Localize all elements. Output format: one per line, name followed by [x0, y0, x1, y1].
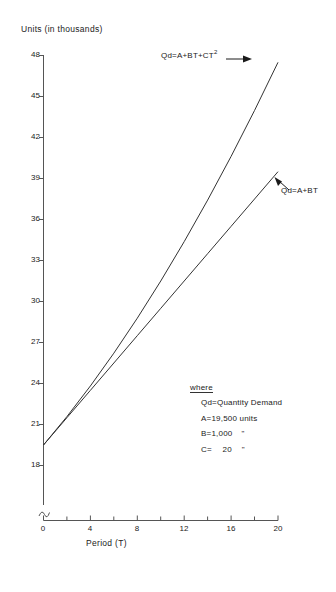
- chart-plot-area: [0, 0, 336, 592]
- x-axis-ticks: [44, 516, 279, 521]
- linear-label-arrow-icon: [275, 177, 290, 190]
- series-line-quadratic: [44, 62, 279, 445]
- y-axis-break-icon: [39, 512, 50, 517]
- quadratic-label-arrow-icon: [226, 56, 252, 63]
- series-line-linear: [44, 172, 279, 445]
- y-axis-ticks: [39, 56, 44, 466]
